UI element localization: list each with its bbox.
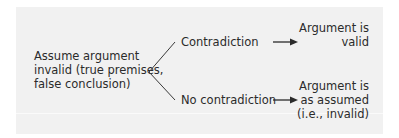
branch-label-contradiction: Contradiction: [181, 35, 259, 49]
outcome-valid-line-2: valid: [299, 35, 369, 49]
branch-line-top: [149, 42, 175, 72]
outcome-invalid: Argument is as assumed (i.e., invalid): [297, 79, 369, 121]
outcome-invalid-line-3: (i.e., invalid): [297, 107, 369, 121]
outcome-invalid-line-1: Argument is: [297, 79, 369, 93]
arrow-icon-bottom: [273, 97, 298, 104]
branch-label-no-contradiction: No contradiction: [181, 93, 276, 107]
outcome-invalid-line-2: as assumed: [297, 93, 369, 107]
arrow-icon-top: [273, 39, 298, 46]
outcome-valid-line-1: Argument is: [299, 21, 369, 35]
branch-line-bottom: [149, 72, 175, 100]
outcome-valid: Argument is valid: [299, 21, 369, 49]
